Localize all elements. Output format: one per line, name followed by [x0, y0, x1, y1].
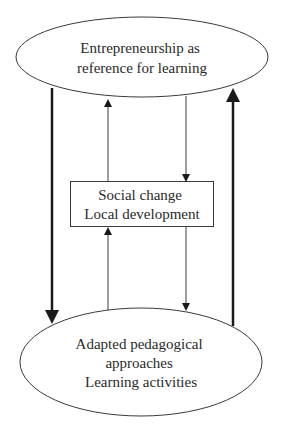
middle-node-line-2: Local development: [84, 206, 200, 222]
bottom-node-line-2: approaches: [105, 355, 173, 371]
arrowhead-down-thin: [182, 174, 190, 182]
top-node-line-2: reference for learning: [77, 60, 207, 76]
arrow-middle-to-bottom: [182, 227, 190, 311]
arrowhead-down-thin: [182, 303, 190, 311]
node-social-change: Social change Local development: [71, 182, 214, 227]
arrow-middle-to-top: [104, 99, 112, 181]
arrow-bottom-to-middle: [104, 227, 112, 310]
arrow-bottom-to-top-thick: [226, 88, 240, 326]
node-pedagogical: Adapted pedagogical approaches Learning …: [20, 308, 262, 416]
node-entrepreneurship: Entrepreneurship as reference for learni…: [16, 17, 268, 97]
arrowhead-up-thick: [226, 88, 240, 102]
top-ellipse: [16, 17, 268, 97]
arrow-top-to-middle: [182, 96, 190, 182]
arrowhead-down-thick: [45, 310, 59, 324]
bottom-node-line-3: Learning activities: [85, 374, 197, 390]
diagram: Entrepreneurship as reference for learni…: [0, 0, 281, 427]
arrowhead-up-thin: [104, 227, 112, 235]
middle-node-line-1: Social change: [98, 187, 182, 203]
arrow-top-to-bottom-thick: [45, 88, 59, 324]
bottom-node-line-1: Adapted pedagogical: [76, 336, 203, 352]
arrowhead-up-thin: [104, 99, 112, 107]
top-node-line-1: Entrepreneurship as: [80, 40, 200, 56]
